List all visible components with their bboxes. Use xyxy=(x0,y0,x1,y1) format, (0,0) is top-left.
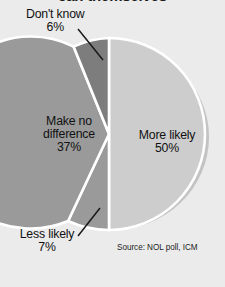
chart-canvas: can themselves xyxy=(0,0,225,287)
slice-label-less-likely: Less likely 7% xyxy=(8,228,86,254)
slice-label-make-no-difference-value: 37% xyxy=(27,141,111,154)
slice-label-less-likely-value: 7% xyxy=(8,241,86,254)
slice-label-dont-know: Don't know 6% xyxy=(26,8,84,34)
slice-label-more-likely-value: 50% xyxy=(124,142,210,155)
slice-label-make-no-difference: Make no difference 37% xyxy=(27,115,111,155)
slice-label-dont-know-value: 6% xyxy=(26,21,84,34)
slice-label-more-likely: More likely 50% xyxy=(124,129,210,155)
source-attribution: Source: NOL poll, ICM xyxy=(117,243,198,252)
